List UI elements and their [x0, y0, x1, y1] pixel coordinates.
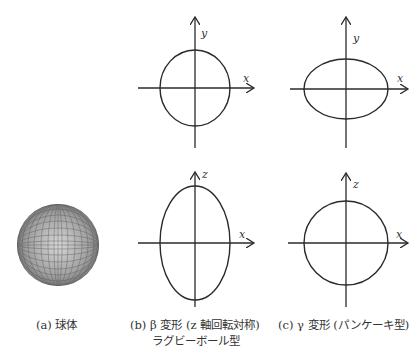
svg-text:x: x [396, 228, 403, 241]
svg-text:x: x [239, 228, 246, 241]
caption-b-line2: ラグビーボール型 [152, 332, 240, 348]
svg-text:x: x [243, 72, 250, 85]
caption-a: (a) 球体 [36, 316, 78, 332]
caption-c: (c) γ 変形 (パンケーキ型) [278, 316, 409, 332]
svg-text:y: y [200, 27, 208, 40]
svg-text:x: x [397, 72, 404, 85]
plot-c-top: y x [290, 17, 408, 148]
svg-text:y: y [352, 32, 360, 45]
plot-b-bottom: z x [138, 168, 254, 307]
plot-b-top: y x [138, 17, 254, 148]
caption-b-line1: (b) β 変形 (z 軸回転対称) [130, 316, 260, 332]
plot-c-bottom: z x [288, 173, 408, 307]
svg-text:z: z [352, 178, 359, 191]
diagram-canvas: y x y x z x z x [0, 0, 420, 354]
sphere-mesh [17, 204, 99, 286]
svg-text:z: z [201, 168, 208, 181]
